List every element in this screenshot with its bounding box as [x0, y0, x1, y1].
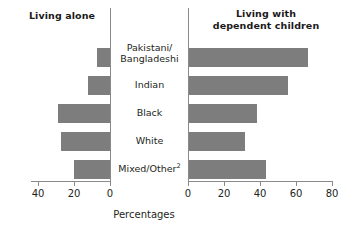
bar-living-with-dependent-children-3 — [189, 132, 245, 151]
xtick-label-left-40: 40 — [25, 188, 51, 200]
category-label-1: Indian — [111, 80, 188, 91]
category-label-line-1: Indian — [111, 80, 188, 91]
axis-zero-line-right — [188, 8, 189, 182]
axis-zero-line-left — [110, 8, 111, 182]
category-label-line-1: Mixed/Other2 — [111, 164, 188, 175]
category-label-4: Mixed/Other2 — [111, 164, 188, 175]
bar-living-alone-0 — [97, 48, 110, 67]
xtick-right-20 — [224, 182, 225, 186]
panel-title-line-2: dependent children — [196, 20, 336, 32]
bar-living-with-dependent-children-2 — [189, 104, 257, 123]
x-axis-caption: Percentages — [0, 209, 288, 220]
category-label-2: Black — [111, 108, 188, 119]
panel-title-living-alone: Living alone — [14, 10, 110, 22]
xtick-label-right-40: 40 — [247, 188, 273, 200]
xtick-right-80 — [332, 182, 333, 186]
chart-container: Living alone Living with dependent child… — [0, 0, 354, 239]
xtick-label-right-80: 80 — [319, 188, 345, 200]
xtick-left-0 — [110, 182, 111, 186]
category-label-line-1: Black — [111, 108, 188, 119]
axis-baseline-left — [31, 181, 111, 182]
xtick-right-40 — [260, 182, 261, 186]
category-label-line-1: Pakistani/ — [111, 43, 188, 54]
xtick-label-right-0: 0 — [175, 188, 201, 200]
xtick-label-left-0: 0 — [97, 188, 123, 200]
bar-living-with-dependent-children-4 — [189, 160, 266, 179]
bar-living-with-dependent-children-0 — [189, 48, 308, 67]
category-label-3: White — [111, 136, 188, 147]
category-label-line-1: White — [111, 136, 188, 147]
bar-living-alone-1 — [88, 76, 110, 95]
bar-living-alone-2 — [58, 104, 110, 123]
category-label-0: Pakistani/Bangladeshi — [111, 43, 188, 64]
category-label-footnote-marker: 2 — [177, 162, 181, 170]
bar-living-with-dependent-children-1 — [189, 76, 288, 95]
xtick-left-20 — [74, 182, 75, 186]
bar-living-alone-4 — [74, 160, 110, 179]
xtick-right-60 — [296, 182, 297, 186]
xtick-right-0 — [188, 182, 189, 186]
bar-living-alone-3 — [61, 132, 110, 151]
category-label-line-2: Bangladeshi — [111, 54, 188, 65]
xtick-label-left-20: 20 — [61, 188, 87, 200]
xtick-left-40 — [38, 182, 39, 186]
xtick-label-right-20: 20 — [211, 188, 237, 200]
xtick-label-right-60: 60 — [283, 188, 309, 200]
panel-title-line-1: Living with — [196, 8, 336, 20]
panel-title-living-with-dependent-children: Living with dependent children — [196, 8, 336, 31]
